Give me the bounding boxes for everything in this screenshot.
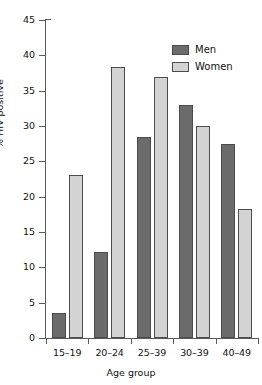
bar-women-25-39 [154, 77, 168, 338]
legend-label-men: Men [195, 44, 216, 55]
legend-item-men: Men [172, 42, 233, 57]
x-axis-line [45, 338, 258, 339]
x-axis-tick-mark [216, 338, 217, 344]
y-axis-tick-label: 45 [1, 13, 35, 26]
y-axis-tick-label: 25 [1, 154, 35, 167]
bar-chart: % HIV positive 051015202530354045 Men Wo… [0, 0, 262, 385]
bar-men-30-39 [179, 105, 193, 338]
y-axis-tick-label: 5 [1, 296, 35, 309]
y-axis-tick-mark [39, 197, 45, 198]
chart-legend: Men Women [172, 42, 233, 76]
y-axis-tick-label: 0 [1, 331, 35, 344]
bar-group [94, 20, 125, 338]
y-axis-tick-mark [39, 161, 45, 162]
bar-women-15-19 [69, 175, 83, 338]
x-axis-tick-mark [46, 338, 47, 344]
y-axis-tick-label: 10 [1, 260, 35, 273]
y-axis-tick-label: 30 [1, 119, 35, 132]
x-axis-tick-mark [258, 338, 259, 344]
legend-swatch-men [172, 45, 189, 55]
bar-men-40-49 [221, 144, 235, 338]
y-axis-tick-mark [39, 303, 45, 304]
y-axis-tick-label: 35 [1, 84, 35, 97]
legend-swatch-women [172, 62, 189, 72]
legend-label-women: Women [195, 61, 233, 72]
y-axis-tick-mark [39, 126, 45, 127]
y-axis-tick-mark [39, 91, 45, 92]
bar-group [137, 20, 168, 338]
y-axis-tick-label: 15 [1, 225, 35, 238]
x-axis-tick-mark [131, 338, 132, 344]
x-axis-title: Age group [0, 367, 262, 378]
x-axis-tick-mark [173, 338, 174, 344]
y-axis-tick-mark [39, 338, 45, 339]
y-axis-tick-mark [39, 20, 45, 21]
bar-group [52, 20, 83, 338]
legend-item-women: Women [172, 59, 233, 74]
y-axis-tick-mark [39, 232, 45, 233]
bar-men-25-39 [137, 137, 151, 338]
x-axis-tick-label: 40–49 [209, 347, 262, 358]
bar-women-20-24 [111, 67, 125, 338]
y-axis-tick-mark [39, 267, 45, 268]
y-axis-tick-label: 40 [1, 48, 35, 61]
y-axis-tick-label: 20 [1, 190, 35, 203]
bar-women-30-39 [196, 126, 210, 338]
bar-men-20-24 [94, 252, 108, 338]
bar-men-15-19 [52, 313, 66, 338]
bar-women-40-49 [238, 209, 252, 338]
x-axis-tick-mark [88, 338, 89, 344]
y-axis-tick-mark [39, 55, 45, 56]
